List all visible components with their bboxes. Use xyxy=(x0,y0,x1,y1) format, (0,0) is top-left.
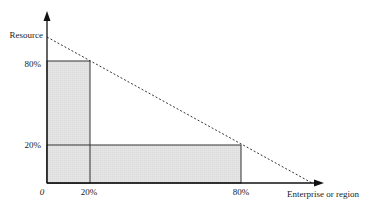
x-axis-arrow-icon xyxy=(314,180,324,187)
y-axis-arrow-icon xyxy=(44,11,51,21)
origin-label: 0 xyxy=(40,187,45,197)
y-axis-label: Resource xyxy=(10,30,44,40)
wide-rectangle xyxy=(47,145,241,183)
x-axis-label: Enterprise or region xyxy=(287,189,359,199)
x-tick-20: 20% xyxy=(81,187,98,197)
pareto-diagram: Resource 80% 20% 0 20% 80% Enterprise or… xyxy=(0,0,378,205)
y-tick-80: 80% xyxy=(25,59,42,69)
y-tick-20: 20% xyxy=(25,140,42,150)
x-tick-80: 80% xyxy=(233,187,250,197)
